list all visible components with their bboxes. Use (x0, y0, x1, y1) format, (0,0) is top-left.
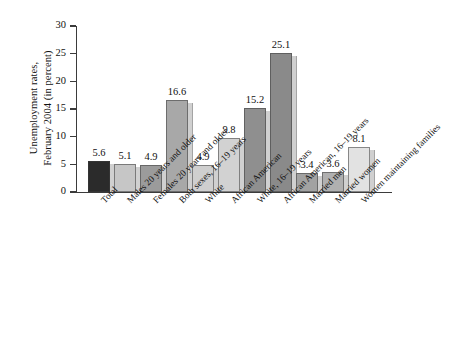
y-axis-tick-mark (70, 81, 76, 82)
bar-group: 5.1 (114, 164, 136, 192)
bar (88, 161, 110, 192)
bar-value-label: 15.2 (246, 94, 264, 106)
y-axis-tick-label: 5 (61, 157, 66, 170)
y-axis-tick-label: 30 (56, 18, 67, 31)
bar-value-label: 5.1 (118, 150, 131, 162)
y-axis-tick: 20 (70, 81, 76, 82)
bar-value-label: 25.1 (272, 39, 290, 51)
x-axis-category-labels: TotalMales 20 years and olderFemales 20 … (76, 198, 464, 348)
y-axis-tick-label: 15 (56, 101, 67, 114)
bar-value-label: 4.9 (144, 151, 157, 163)
y-axis-tick-label: 20 (56, 74, 67, 87)
y-axis-tick: 30 (70, 25, 76, 26)
y-axis-tick-mark (70, 191, 76, 192)
y-axis-tick-mark (70, 108, 76, 109)
bar-value-label: 5.6 (92, 147, 105, 159)
y-axis-line (76, 26, 77, 192)
y-axis-tick-mark (70, 136, 76, 137)
y-axis-tick-label: 25 (56, 46, 67, 59)
y-axis-title-line-1: Unemployment rates, (27, 50, 41, 165)
y-axis-title-line-2: February 2004 (in percent) (40, 50, 54, 165)
y-axis-tick: 10 (70, 136, 76, 137)
bar-value-label: 16.6 (168, 86, 186, 98)
unemployment-rates-bar-chart: Unemployment rates, February 2004 (in pe… (0, 0, 464, 348)
y-axis-tick: 5 (70, 164, 76, 165)
y-axis-tick: 0 (70, 191, 76, 192)
y-axis-tick-label: 10 (56, 129, 67, 142)
bar (114, 164, 136, 192)
y-axis-tick-mark (70, 25, 76, 26)
y-axis-tick: 25 (70, 53, 76, 54)
y-axis-tick-label: 0 (61, 184, 66, 197)
bar-group: 5.6 (88, 161, 110, 192)
y-axis-tick: 15 (70, 108, 76, 109)
y-axis-tick-mark (70, 53, 76, 54)
y-axis-title: Unemployment rates, February 2004 (in pe… (22, 22, 58, 194)
y-axis-tick-mark (70, 164, 76, 165)
